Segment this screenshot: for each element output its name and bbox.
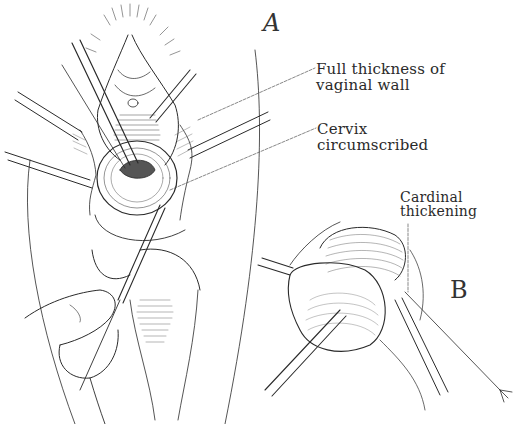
label-line: thickening — [400, 204, 477, 218]
label-cervix-circumscribed: Cervix circumscribed — [317, 121, 428, 153]
label-line: Cervix — [317, 121, 428, 137]
label-line: circumscribed — [317, 137, 428, 153]
label-full-thickness-vaginal-wall: Full thickness of vaginal wall — [316, 61, 445, 93]
panel-b-drawing — [258, 222, 512, 410]
panel-a-drawing — [5, 4, 270, 424]
label-line: vaginal wall — [316, 77, 445, 93]
surgical-illustration: A B Full thickness of vaginal wall Cervi… — [0, 0, 531, 424]
panel-label-a: A — [263, 9, 280, 37]
panel-label-b: B — [450, 276, 468, 304]
label-line: Full thickness of — [316, 61, 445, 77]
label-line: Cardinal — [400, 190, 477, 204]
leader-line-full-thickness — [198, 68, 315, 120]
label-cardinal-thickening: Cardinal thickening — [400, 190, 477, 218]
